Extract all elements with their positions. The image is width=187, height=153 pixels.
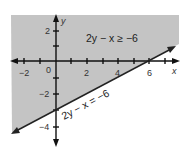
y-tick-label: −4 (39, 122, 49, 132)
x-tick-label: 2 (84, 68, 89, 78)
x-axis-label: x (171, 66, 177, 76)
x-tick-label: 4 (115, 68, 120, 78)
y-tick-label: 2 (45, 26, 50, 36)
inequality-graph: −2 0 2 4 6 x 2 −2 −4 y 2y − x ≥ −6 2y − … (0, 0, 187, 153)
y-axis-arrow-down-icon (53, 139, 59, 147)
x-tick-label: −2 (19, 68, 29, 78)
y-tick-label: −2 (39, 89, 49, 99)
x-tick-label: 6 (147, 68, 152, 78)
origin-label: 0 (46, 65, 51, 75)
inequality-label: 2y − x ≥ −6 (86, 32, 138, 44)
y-axis-label: y (60, 16, 66, 26)
x-axis-arrow-right-icon (172, 58, 180, 64)
boundary-arrow-upper-icon (167, 46, 176, 53)
